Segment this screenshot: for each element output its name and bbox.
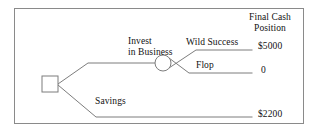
header-line-2: Position [254,23,286,33]
chance-node-circle [155,55,171,71]
header-line-1: Final Cash [249,12,291,22]
branch-savings-line [58,85,252,117]
outcome-value-wild-success: $5000 [258,41,282,52]
branch-label-invest-line-1: Invest [128,36,152,46]
branch-invest-line [58,63,155,84]
branch-label-wild-success: Wild Success [186,37,238,48]
final-cash-position-header: Final Cash Position [239,12,301,34]
branch-label-flop: Flop [196,60,214,71]
outcome-value-flop: 0 [261,65,266,76]
decision-tree-diagram: Final Cash Position Invest in Business W… [0,0,320,131]
branch-label-invest-line-2: in Business [128,47,173,57]
branch-label-savings: Savings [95,96,126,107]
decision-node-square [42,76,58,92]
outcome-value-savings: $2200 [258,109,282,120]
